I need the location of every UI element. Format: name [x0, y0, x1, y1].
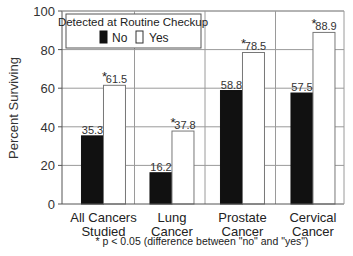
value-label: 57.5 — [291, 81, 312, 93]
y-axis-ticks: 020406080100 — [33, 4, 62, 212]
bar-yes — [103, 85, 125, 204]
y-tick-label: 60 — [41, 81, 55, 96]
significance-asterisk: * — [311, 16, 316, 31]
y-tick-label: 100 — [33, 4, 55, 19]
value-label: 58.8 — [221, 79, 242, 91]
y-tick-label: 80 — [41, 43, 55, 58]
value-label: 16.2 — [150, 161, 171, 173]
significance-asterisk: * — [170, 115, 175, 130]
significance-asterisk: * — [241, 36, 246, 51]
legend-title: Detected at Routine Checkup — [58, 16, 208, 28]
value-label: 37.8 — [174, 119, 195, 131]
legend-swatch-no — [100, 31, 107, 43]
legend: Detected at Routine CheckupNoYes — [58, 14, 208, 48]
category-label: All Cancers — [70, 210, 137, 225]
survival-bar-chart: 020406080100 Percent Surviving 35.361.5*… — [0, 0, 353, 256]
y-axis-label: Percent Surviving — [6, 57, 21, 159]
y-tick-label: 0 — [48, 197, 55, 212]
y-tick-label: 40 — [41, 120, 55, 135]
legend-label-yes: Yes — [149, 31, 169, 45]
bar-no — [81, 136, 103, 204]
significance-asterisk: * — [102, 69, 107, 84]
bar-no — [150, 173, 172, 204]
category-label: Cervical — [289, 210, 336, 225]
bar-yes — [172, 131, 194, 204]
bar-yes — [313, 32, 335, 204]
bar-yes — [242, 52, 264, 204]
value-label: 88.9 — [315, 20, 336, 32]
value-label: 78.5 — [245, 40, 266, 52]
category-label: Lung — [158, 210, 187, 225]
legend-label-no: No — [112, 31, 128, 45]
legend-swatch-yes — [136, 31, 143, 43]
footnote: * p < 0.05 (difference between "no" and … — [96, 235, 309, 247]
bar-no — [291, 93, 313, 204]
category-label: Prostate — [218, 210, 266, 225]
value-label: 35.3 — [82, 124, 103, 136]
value-label: 61.5 — [106, 73, 127, 85]
bar-no — [220, 91, 242, 204]
y-tick-label: 20 — [41, 158, 55, 173]
